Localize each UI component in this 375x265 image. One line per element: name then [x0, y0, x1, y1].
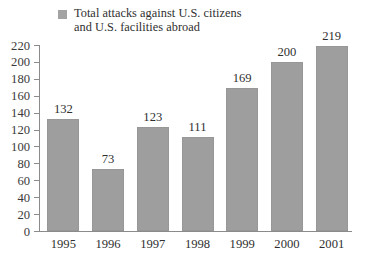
y-tick: 20	[34, 214, 39, 215]
bar	[226, 88, 258, 231]
x-tick-label: 1996	[95, 237, 120, 252]
bar-value-label: 200	[277, 45, 296, 60]
y-tick: 60	[34, 180, 39, 181]
bar	[137, 127, 169, 231]
y-tick: 120	[34, 130, 39, 131]
x-tick-label: 1995	[51, 237, 76, 252]
chart-legend: Total attacks against U.S. citizens and …	[58, 6, 242, 34]
x-tick-label: 2000	[274, 237, 299, 252]
bar-group: 2192001	[316, 46, 348, 231]
bar-value-label: 123	[143, 110, 162, 125]
bar-value-label: 169	[233, 71, 252, 86]
y-tick-label: 160	[11, 89, 30, 104]
y-tick: 220	[34, 45, 39, 46]
y-tick: 180	[34, 79, 39, 80]
y-tick-label: 40	[17, 190, 30, 205]
bar-value-label: 73	[102, 152, 115, 167]
x-axis-line	[39, 231, 352, 232]
bar-group: 2002000	[271, 62, 303, 231]
plot-area: 020406080100120140160180200220 132199573…	[39, 45, 352, 232]
y-tick: 140	[34, 113, 39, 114]
bar	[92, 169, 124, 231]
bar-value-label: 111	[189, 120, 207, 135]
legend-label: Total attacks against U.S. citizens and …	[74, 6, 242, 34]
y-tick-label: 20	[17, 207, 30, 222]
bar-group: 1231997	[137, 127, 169, 231]
y-tick: 0	[34, 231, 39, 232]
bar-group: 731996	[92, 169, 124, 231]
y-tick: 80	[34, 163, 39, 164]
y-axis-line	[39, 45, 40, 232]
bar	[47, 119, 79, 231]
y-tick-label: 140	[11, 106, 30, 121]
x-tick-label: 1997	[140, 237, 165, 252]
bar-group: 1111998	[182, 137, 214, 231]
y-tick-label: 60	[17, 173, 30, 188]
y-tick-label: 80	[17, 156, 30, 171]
y-tick-label: 100	[11, 139, 30, 154]
y-tick-label: 200	[11, 55, 30, 70]
y-tick: 40	[34, 197, 39, 198]
bar-value-label: 219	[322, 29, 341, 44]
x-tick-label: 1999	[230, 237, 255, 252]
y-tick-label: 220	[11, 38, 30, 53]
y-tick-label: 120	[11, 123, 30, 138]
y-tick-label: 180	[11, 72, 30, 87]
x-tick-label: 2001	[319, 237, 344, 252]
bar-value-label: 132	[54, 102, 73, 117]
bar	[182, 137, 214, 231]
bar-group: 1691999	[226, 88, 258, 231]
bar-group: 1321995	[47, 119, 79, 231]
y-tick: 200	[34, 62, 39, 63]
y-tick: 100	[34, 146, 39, 147]
bar	[316, 46, 348, 231]
legend-swatch-icon	[58, 10, 67, 19]
y-tick: 160	[34, 96, 39, 97]
y-tick-label: 0	[24, 224, 30, 239]
x-tick-label: 1998	[185, 237, 210, 252]
bar	[271, 62, 303, 231]
